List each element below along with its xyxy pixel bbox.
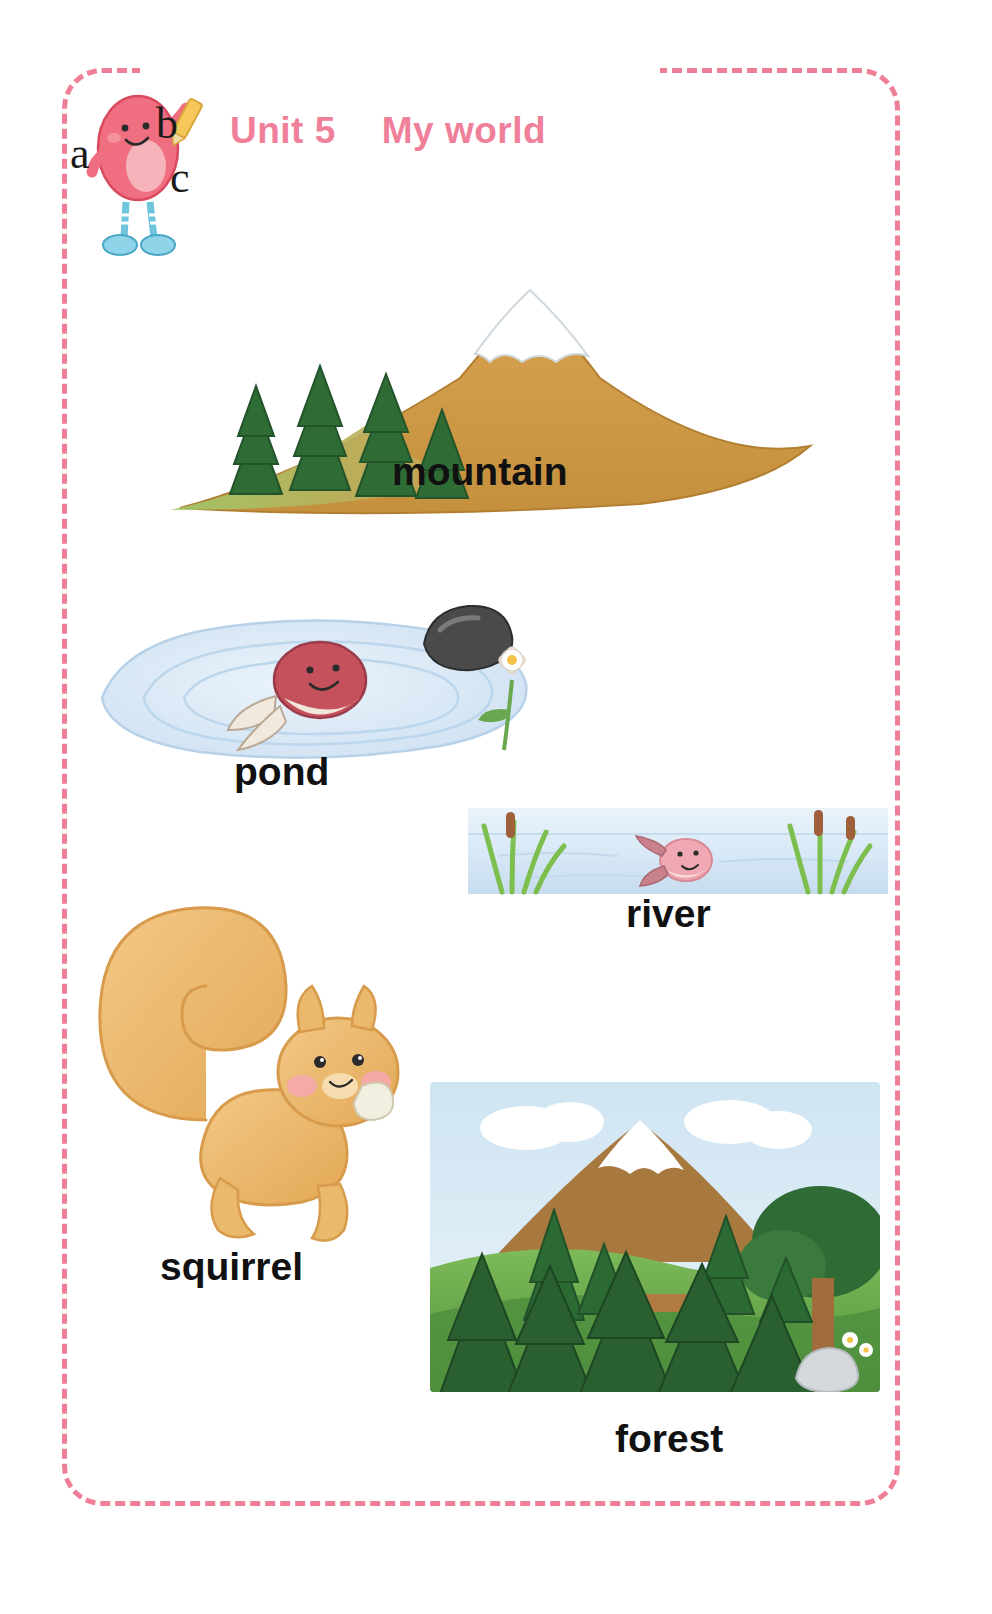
mascot-letter-a: a [70,132,90,176]
vocab-item-squirrel: squirrel [86,890,446,1310]
vocab-item-mountain: mountain [160,258,820,518]
caption-forest: forest [615,1417,723,1461]
forest-illustration [430,1082,880,1472]
caption-squirrel: squirrel [160,1245,303,1289]
caption-river: river [626,892,711,936]
mascot-figure [68,80,228,265]
caption-pond: pond [234,750,329,794]
unit-header: Unit 5 My world [230,110,546,152]
mascot-letter-b: b [156,102,178,146]
abc-mascot: a b c [68,80,228,265]
vocab-item-forest: forest [430,1082,880,1472]
vocab-item-pond: pond [88,580,568,810]
mascot-letter-c: c [170,156,190,200]
unit-title: My world [382,110,546,152]
frame-header-gap [140,58,660,82]
vocab-item-river: river [468,800,888,950]
caption-mountain: mountain [392,450,567,494]
unit-number-label: Unit 5 [230,110,336,152]
